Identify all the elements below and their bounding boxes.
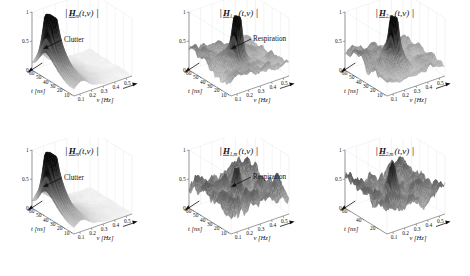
annotation-label: Respiration [253,173,287,181]
panel-svg: 00.510.10.20.30.40.5102030405060t [ns]ν … [157,0,314,138]
panel-svg: 00.510.10.20.30.40.5102030405060t [ns]ν … [0,138,157,276]
t-tick-label: 50 [36,74,42,80]
svg-text:1,m: 1,m [229,13,237,19]
v-axis-label-text: ν [Hz] [253,234,270,242]
v-axis-label-text: ν [Hz] [96,96,113,104]
z-axis-ticks: 00.51 [178,9,188,73]
v-tick-label: 0.3 [414,88,421,94]
panel-svg: 00.510.10.20.30.40.5204060t [ns]ν [Hz]|H… [313,138,470,276]
t-axis-label-text: t [ns] [344,87,359,95]
surface-mesh [345,16,445,83]
svg-text:2,m: 2,m [386,151,394,157]
annotation-label: Clutter [64,36,85,44]
v-tick-label: 0.4 [112,84,119,90]
surface-panel-top-middle: 00.510.10.20.30.40.5102030405060t [ns]ν … [157,0,314,138]
t-tick-label: 40 [43,79,49,85]
t-tick-label: 10 [221,230,227,236]
t-tick-label: 10 [64,92,70,98]
z-tick-label: 1 [26,9,29,15]
svg-text:(t,ν): (t,ν) [238,8,253,18]
annotation-label: Clutter [64,174,85,182]
v-tick-label: 0.5 [281,80,288,86]
v-tick-label: 0.5 [124,218,131,224]
v-tick-label: 0.4 [426,222,433,228]
v-tick-label: 0.3 [257,226,264,232]
t-tick-label: 10 [64,230,70,236]
svg-text:(t,ν): (t,ν) [238,146,253,156]
t-tick-label: 50 [36,212,42,218]
z-tick-label: 0.5 [22,176,29,182]
t-tick-label: 40 [43,217,49,223]
figure-root: 00.510.10.20.30.40.5102030405060t [ns]ν … [0,0,470,276]
v-tick-label: 0.2 [89,230,96,236]
svg-text:|: | [376,7,378,18]
surface-panel-top-left: 00.510.10.20.30.40.5102030405060t [ns]ν … [0,0,157,138]
svg-text:|: | [256,145,258,156]
t-tick-label: 20 [370,87,376,93]
svg-text:1,m: 1,m [229,151,237,157]
v-tick-label: 0.3 [101,226,108,232]
v-tick-label: 0.4 [269,84,276,90]
t-tick-label: 10 [221,92,227,98]
z-tick-label: 0.5 [22,38,29,44]
v-tick-label: 0.1 [78,96,85,102]
surface-mesh [189,16,289,85]
svg-text:|: | [256,7,258,18]
svg-text:|: | [96,145,98,156]
svg-text:2,m: 2,m [386,13,394,19]
t-tick-label: 50 [349,74,355,80]
svg-text:(t,ν): (t,ν) [395,146,410,156]
v-axis-label-text: ν [Hz] [253,96,270,104]
v-tick-label: 0.1 [234,96,241,102]
v-tick-label: 0.1 [391,234,398,240]
v-tick-label: 0.4 [269,222,276,228]
z-axis-ticks: 00.51 [178,147,188,211]
z-axis-ticks: 00.51 [22,147,32,211]
v-tick-label: 0.3 [414,226,421,232]
v-tick-label: 0.5 [437,218,444,224]
svg-text:|: | [219,7,221,18]
t-tick-label: 30 [207,221,213,227]
t-tick-label: 20 [214,225,220,231]
v-tick-label: 0.1 [78,234,85,240]
svg-text:|: | [65,7,67,18]
svg-text:|: | [412,145,414,156]
z-tick-label: 0.5 [178,176,185,182]
z-tick-label: 0.5 [178,38,185,44]
v-axis-label-text: ν [Hz] [96,234,113,242]
t-tick-label: 40 [356,79,362,85]
svg-text:(t,ν): (t,ν) [79,146,94,156]
z-tick-label: 1 [26,147,29,153]
panel-title: |H1,m(t,ν)| [219,145,257,157]
svg-text:|: | [65,145,67,156]
panel-title: |H2,m(t,ν)| [376,145,414,157]
v-tick-label: 0.5 [437,80,444,86]
svg-text:|: | [412,7,414,18]
svg-text:(t,ν): (t,ν) [395,8,410,18]
z-tick-label: 1 [339,147,342,153]
t-tick-label: 50 [193,74,199,80]
v-tick-label: 0.1 [391,96,398,102]
t-axis-label-text: t [ns] [188,225,203,233]
t-tick-label: 20 [214,87,220,93]
t-tick-label: 20 [370,225,376,231]
surface-panel-bottom-right: 00.510.10.20.30.40.5204060t [ns]ν [Hz]|H… [313,138,470,276]
annotation-label: Respiration [253,35,287,43]
panel-title: |H1,m(t,ν)| [219,7,257,19]
t-axis-label-text: t [ns] [344,225,359,233]
v-tick-label: 0.3 [257,88,264,94]
z-tick-label: 1 [183,9,186,15]
t-tick-label: 20 [57,225,63,231]
v-tick-label: 0.3 [101,88,108,94]
v-tick-label: 0.4 [426,84,433,90]
surface-mesh [32,14,132,89]
t-tick-label: 30 [363,83,369,89]
t-tick-label: 30 [50,221,56,227]
svg-text:|: | [219,145,221,156]
surface-panel-bottom-middle: 00.510.10.20.30.40.5102030405060t [ns]ν … [157,138,314,276]
z-axis-ticks: 00.51 [22,9,32,73]
z-tick-label: 1 [183,147,186,153]
z-tick-label: 0.5 [335,176,342,182]
t-tick-label: 20 [57,87,63,93]
svg-text:|: | [96,7,98,18]
